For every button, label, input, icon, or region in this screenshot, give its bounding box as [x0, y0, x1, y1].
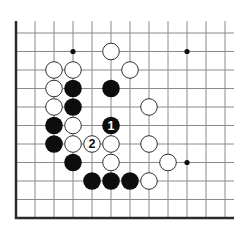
star-point-icon	[184, 49, 189, 54]
black-stone	[64, 154, 82, 172]
white-stone-icon	[46, 80, 63, 97]
black-stone-icon	[64, 154, 82, 172]
black-stone	[64, 98, 82, 116]
white-stone-icon	[141, 99, 158, 116]
go-board: 12	[0, 0, 248, 234]
star-point-icon	[70, 49, 75, 54]
white-stone-icon	[160, 154, 177, 171]
white-stone-icon	[65, 136, 82, 153]
black-stone	[83, 172, 101, 190]
white-stone	[141, 173, 158, 190]
white-stone	[65, 62, 82, 79]
star-point-icon	[184, 160, 189, 165]
move-number-label: 1	[108, 119, 115, 133]
black-stone-icon	[121, 172, 139, 190]
white-stone-icon	[103, 154, 120, 171]
black-stone	[64, 80, 82, 98]
white-stone	[46, 99, 63, 116]
white-stone-icon	[65, 117, 82, 134]
white-stone	[122, 62, 139, 79]
white-stone	[65, 117, 82, 134]
white-stone-icon	[122, 62, 139, 79]
white-stone-icon	[65, 62, 82, 79]
black-stone-move-1: 1	[102, 117, 120, 135]
white-stone	[46, 80, 63, 97]
black-stone-icon	[83, 172, 101, 190]
move-number-label: 2	[89, 137, 96, 151]
white-stone	[141, 136, 158, 153]
black-stone	[45, 135, 63, 153]
white-stone	[160, 154, 177, 171]
black-stone	[121, 172, 139, 190]
black-stone-icon	[45, 135, 63, 153]
white-stone-move-2: 2	[84, 136, 101, 153]
black-stone-icon	[45, 117, 63, 135]
white-stone-icon	[103, 43, 120, 60]
white-stone-icon	[46, 99, 63, 116]
black-stone	[45, 117, 63, 135]
white-stone-icon	[46, 62, 63, 79]
black-stone-icon	[64, 80, 82, 98]
white-stone-icon	[141, 173, 158, 190]
black-stone-icon	[64, 98, 82, 116]
white-stone	[103, 154, 120, 171]
white-stone	[103, 136, 120, 153]
white-stone	[103, 43, 120, 60]
white-stone	[65, 136, 82, 153]
white-stone	[141, 99, 158, 116]
black-stone-icon	[102, 172, 120, 190]
black-stone	[102, 172, 120, 190]
black-stone-icon	[102, 80, 120, 98]
black-stone	[102, 80, 120, 98]
white-stone	[46, 62, 63, 79]
white-stone-icon	[103, 136, 120, 153]
white-stone-icon	[141, 136, 158, 153]
